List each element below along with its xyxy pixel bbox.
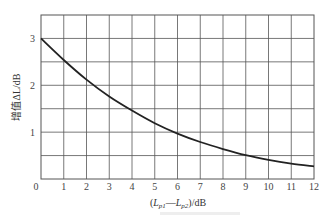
grid-lines	[41, 15, 314, 179]
x-tick-label: 2	[84, 181, 89, 192]
x-tick-label: 10	[264, 181, 274, 192]
y-axis-label: 增值ΔL/dB	[10, 73, 22, 120]
x-tick-label: 11	[286, 181, 296, 192]
figure-caption-faint	[160, 212, 240, 215]
x-tick-label: 4	[130, 181, 135, 192]
y-tick-label: 1	[30, 127, 35, 138]
x-tick-label: 7	[198, 181, 203, 192]
x-tick-label: 1	[61, 181, 66, 192]
x-tick-label: 8	[221, 181, 226, 192]
x-axis-ticks: 123456789101112	[61, 181, 319, 192]
y-tick-label: 3	[30, 33, 35, 44]
x-tick-label: 3	[107, 181, 112, 192]
x-tick-label: 12	[309, 181, 319, 192]
y-tick-label: 2	[30, 80, 35, 91]
origin-label: 0	[34, 181, 39, 192]
y-axis-ticks: 123	[30, 33, 35, 138]
x-tick-label: 9	[243, 181, 248, 192]
x-tick-label: 6	[175, 181, 180, 192]
decibel-addition-chart: 123456789101112 123 0 (Lp1—Lp2)/dB 增值ΔL/…	[0, 0, 331, 220]
x-axis-label: (Lp1—Lp2)/dB	[150, 197, 207, 210]
x-tick-label: 5	[152, 181, 157, 192]
